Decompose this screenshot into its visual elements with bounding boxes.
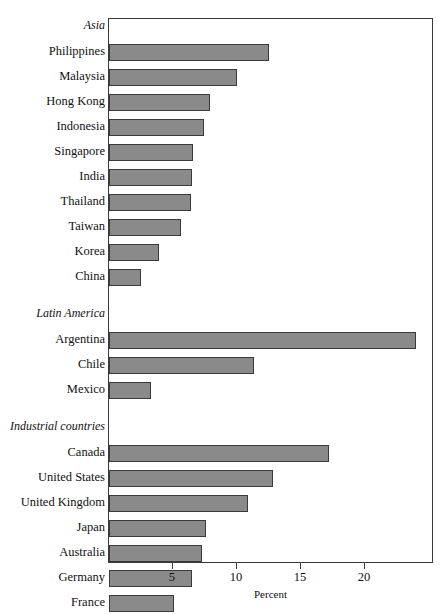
group-header-asia: Asia	[0, 19, 105, 32]
bar	[109, 520, 206, 537]
bar	[109, 94, 210, 111]
plot-area	[108, 18, 433, 563]
horizontal-bar-chart: AsiaPhilippinesMalaysiaHong KongIndonesi…	[0, 0, 444, 614]
x-axis-tick-label: 20	[344, 570, 384, 585]
bar	[109, 244, 159, 261]
x-axis-tick-label: 5	[152, 570, 192, 585]
x-axis-tick	[364, 563, 365, 569]
category-label: United States	[0, 471, 105, 484]
category-label: Singapore	[0, 145, 105, 158]
bar	[109, 470, 273, 487]
category-label: Australia	[0, 546, 105, 559]
x-axis-tick	[236, 563, 237, 569]
category-label: Philippines	[0, 45, 105, 58]
bar	[109, 357, 254, 374]
x-axis-tick	[172, 563, 173, 569]
bar	[109, 44, 269, 61]
x-axis-tick-label: 15	[280, 570, 320, 585]
bar	[109, 332, 416, 349]
bar	[109, 545, 202, 562]
x-axis-title: Percent	[108, 588, 433, 600]
x-axis-tick-label: 10	[216, 570, 256, 585]
category-label: Germany	[0, 571, 105, 584]
bar	[109, 219, 181, 236]
category-label: United Kingdom	[0, 496, 105, 509]
category-label: Thailand	[0, 195, 105, 208]
bar	[109, 144, 193, 161]
category-label: Argentina	[0, 333, 105, 346]
category-label: Chile	[0, 358, 105, 371]
bar	[109, 495, 248, 512]
bar	[109, 194, 191, 211]
category-label: Taiwan	[0, 220, 105, 233]
category-label: Hong Kong	[0, 95, 105, 108]
category-label: Indonesia	[0, 120, 105, 133]
group-header-latin-america: Latin America	[0, 307, 105, 320]
group-header-industrial-countries: Industrial countries	[0, 420, 105, 433]
category-label: Malaysia	[0, 70, 105, 83]
category-label: Mexico	[0, 383, 105, 396]
category-label: Japan	[0, 521, 105, 534]
bar	[109, 69, 237, 86]
bar	[109, 169, 192, 186]
bar	[109, 445, 329, 462]
category-label: Canada	[0, 446, 105, 459]
category-label: Korea	[0, 245, 105, 258]
bar	[109, 119, 204, 136]
category-label: France	[0, 596, 105, 609]
bar	[109, 269, 141, 286]
bar	[109, 382, 151, 399]
category-label: China	[0, 270, 105, 283]
category-label: India	[0, 170, 105, 183]
x-axis-tick	[300, 563, 301, 569]
